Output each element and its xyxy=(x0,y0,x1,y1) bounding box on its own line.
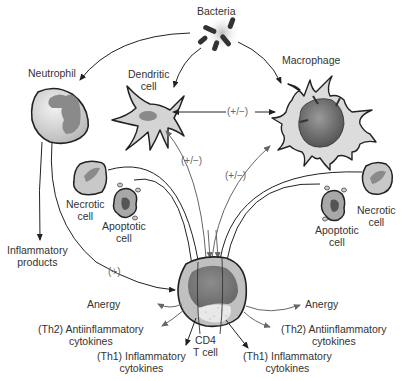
arrow-tcell-to-macrophage xyxy=(212,146,270,258)
sign-dc-macrophage: (+/−) xyxy=(227,106,248,117)
sign-tcell-macrophage: (+/−) xyxy=(225,170,246,181)
macrophage-icon xyxy=(272,76,376,170)
sign-tcell-dendritic: (+/−) xyxy=(181,155,202,166)
label-anergy-left: Anergy xyxy=(87,298,120,310)
arrow-tcell-to-dendritic xyxy=(166,131,206,258)
arrow-tcell-to-th1-right xyxy=(226,320,248,348)
label-macrophage: Macrophage xyxy=(282,54,340,66)
label-neutrophil: Neutrophil xyxy=(28,67,76,79)
line-apoptotic-right-to-tcell xyxy=(226,184,320,265)
label-necrotic-cell-right: Necrotic cell xyxy=(357,204,396,228)
label-th1-right: (Th1) Inflammatory cytokines xyxy=(243,350,332,374)
label-inflammatory-products: Inflammatory products xyxy=(7,244,68,268)
necrotic-cell-right-icon xyxy=(362,162,392,194)
label-apoptotic-cell-left: Apoptotic cell xyxy=(102,220,146,244)
arrow-tcell-to-anergy-right xyxy=(246,305,300,311)
label-th1-left: (Th1) Inflammatory cytokines xyxy=(97,350,186,374)
cd4-tcell-icon xyxy=(178,257,246,334)
arrow-tcell-to-th2-left xyxy=(162,310,184,326)
label-dendritic-cell: Dendritic cell xyxy=(128,68,169,92)
immune-interaction-diagram: Bacteria Neutrophil Dendritic cell Macro… xyxy=(0,0,405,381)
arrow-bacteria-to-macrophage xyxy=(238,42,281,83)
label-anergy-right: Anergy xyxy=(305,298,338,310)
arrow-bacteria-to-dendritic xyxy=(174,48,201,87)
label-th2-left: (Th2) Antiinflammatory cytokines xyxy=(38,323,144,347)
label-cd4-tcell: CD4 T cell xyxy=(193,334,218,358)
arrow-tcell-to-anergy-left xyxy=(158,304,182,307)
arrow-neutrophil-to-inflammatory-products xyxy=(39,142,42,240)
arrow-into-tcell-a xyxy=(208,230,210,258)
necrotic-cell-left-icon xyxy=(74,161,107,194)
label-bacteria: Bacteria xyxy=(197,5,236,17)
bacteria-icon xyxy=(197,15,240,52)
label-th2-right: (Th2) Antiinflammatory cytokines xyxy=(281,323,387,347)
arrow-into-tcell-b xyxy=(216,230,218,258)
label-necrotic-cell-left: Necrotic cell xyxy=(66,198,105,222)
apoptotic-cell-left-icon xyxy=(114,183,141,220)
label-apoptotic-cell-right: Apoptotic cell xyxy=(315,224,359,248)
sign-neutrophil-tcell: (+) xyxy=(108,266,121,277)
arrow-tcell-to-th2-right xyxy=(244,312,270,327)
apoptotic-cell-right-icon xyxy=(322,186,347,221)
neutrophil-icon xyxy=(32,88,89,143)
